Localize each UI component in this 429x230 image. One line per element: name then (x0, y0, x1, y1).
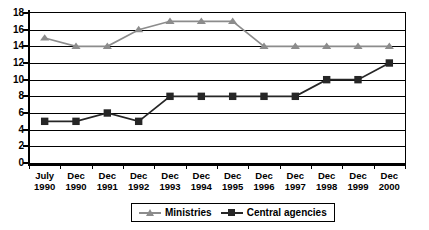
x-tick (280, 164, 281, 169)
legend-item-ministries[interactable]: Ministries (139, 207, 212, 218)
y-tick-label: 12 (0, 58, 24, 68)
legend-item-central-agencies[interactable]: Central agencies (221, 207, 327, 218)
gridline (29, 130, 405, 131)
y-tick-label: 18 (0, 8, 24, 18)
y-tick-label: 16 (0, 25, 24, 35)
chart-legend: Ministries Central agencies (131, 203, 335, 222)
x-tick (248, 164, 249, 169)
gridline (29, 30, 405, 31)
gridline (29, 96, 405, 97)
y-tick-label: 14 (0, 41, 24, 51)
legend-label-ministries: Ministries (165, 208, 212, 218)
x-tick-label: Dec2000 (366, 170, 412, 192)
x-tick (29, 164, 30, 169)
x-tick (342, 164, 343, 169)
gridline (29, 63, 405, 64)
gridline (29, 113, 405, 114)
x-tick (154, 164, 155, 169)
y-tick-label: 0 (0, 158, 24, 168)
gridline (29, 46, 405, 47)
x-tick (92, 164, 93, 169)
x-tick (217, 164, 218, 169)
x-tick (405, 164, 406, 169)
square-marker-icon (221, 207, 243, 218)
gridline (29, 146, 405, 147)
legend-label-central-agencies: Central agencies (247, 208, 327, 218)
x-tick (60, 164, 61, 169)
line-chart: 181614121086420 July1990Dec1990Dec1991De… (0, 0, 429, 230)
y-tick-label: 10 (0, 75, 24, 85)
gridline (29, 80, 405, 81)
plot-area (28, 12, 406, 164)
y-axis (28, 10, 30, 166)
x-tick (123, 164, 124, 169)
x-tick (374, 164, 375, 169)
y-tick-label: 2 (0, 141, 24, 151)
x-tick (311, 164, 312, 169)
triangle-marker-icon (139, 207, 161, 218)
y-tick-label: 4 (0, 125, 24, 135)
x-tick (186, 164, 187, 169)
y-tick-label: 8 (0, 91, 24, 101)
y-tick-label: 6 (0, 108, 24, 118)
